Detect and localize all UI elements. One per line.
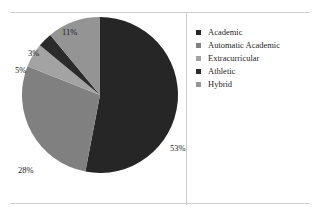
legend-item-athletic[interactable]: Athletic <box>196 65 316 78</box>
legend-item-academic[interactable]: Academic <box>196 26 316 39</box>
pie-plot-area: 11% 3% 5% 28% 53% <box>10 13 186 205</box>
pie-label-hybrid: 11% <box>62 27 77 37</box>
chart-frame: 11% 3% 5% 28% 53% Academic Automatic Aca… <box>10 12 310 204</box>
legend-swatch-icon <box>196 69 201 74</box>
legend-swatch-icon <box>196 82 201 87</box>
pie-label-extracurricular: 5% <box>15 65 26 75</box>
chart-legend: Academic Automatic Academic Extracurricu… <box>196 26 316 91</box>
legend-item-extracurricular[interactable]: Extracurricular <box>196 52 316 65</box>
pie-chart <box>22 17 178 173</box>
panel-divider <box>186 13 187 205</box>
legend-item-automatic-academic[interactable]: Automatic Academic <box>196 39 316 52</box>
pie-label-athletic: 3% <box>28 48 39 58</box>
pie-label-academic: 53% <box>170 143 186 153</box>
legend-item-label: Athletic <box>208 65 235 78</box>
pie-label-automatic-academic: 28% <box>18 165 34 175</box>
legend-swatch-icon <box>196 56 201 61</box>
legend-item-label: Academic <box>208 26 242 39</box>
legend-swatch-icon <box>196 43 201 48</box>
legend-item-label: Automatic Academic <box>208 39 280 52</box>
legend-swatch-icon <box>196 30 201 35</box>
legend-item-hybrid[interactable]: Hybrid <box>196 78 316 91</box>
legend-item-label: Hybrid <box>208 78 232 91</box>
legend-item-label: Extracurricular <box>208 52 259 65</box>
